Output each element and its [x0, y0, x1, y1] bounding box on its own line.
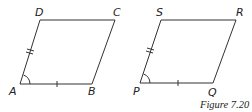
tick-mark-ps-1 [147, 48, 154, 50]
tick-mark-ps-2 [146, 51, 153, 53]
vertex-label-c: C [113, 6, 121, 19]
angle-arc-a [24, 75, 31, 84]
parallelogram-abcd-shape [20, 20, 115, 84]
vertex-label-r: R [236, 6, 244, 19]
diagram-canvas: A B C D P Q R S Figure 7.20 [0, 0, 252, 112]
figure-caption: Figure 7.20 [199, 99, 250, 110]
vertex-label-s: S [156, 6, 163, 19]
vertex-label-b: B [88, 85, 96, 98]
vertex-label-a: A [8, 85, 17, 98]
angle-arc-p [144, 74, 151, 83]
parallelogram-pqrs-shape [140, 20, 236, 83]
parallelogram-abcd [20, 20, 115, 87]
vertex-label-q: Q [208, 86, 217, 99]
vertex-label-p: P [133, 85, 140, 98]
vertex-label-d: D [35, 6, 43, 19]
parallelogram-pqrs [140, 20, 236, 86]
